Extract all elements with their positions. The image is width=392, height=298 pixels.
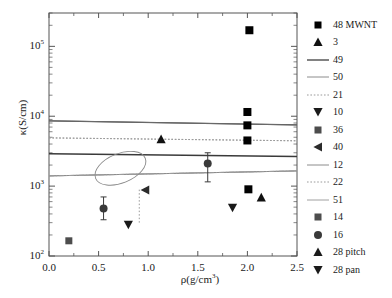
legend-key-line-solid-light-icon: [306, 69, 330, 86]
legend-label: 36: [330, 125, 343, 135]
legend-item[interactable]: 49: [306, 51, 392, 69]
x-tick-label: 0.0: [29, 262, 69, 273]
legend-key-triangle-up-icon: [306, 34, 330, 51]
legend-label: 12: [330, 160, 343, 170]
x-axis-title-tail: ): [215, 273, 219, 285]
y-axis-title: κ(S/cm): [17, 78, 28, 158]
data-point-48-mwnt: [243, 136, 251, 144]
data-points-layer: [65, 26, 266, 244]
legend-item[interactable]: 28 pan: [306, 261, 392, 279]
data-point-16: [204, 160, 212, 168]
y-tick-label: 103: [8, 180, 44, 191]
x-tick-label: 2.0: [227, 262, 267, 273]
legend-key-triangle-up-icon: [306, 244, 330, 261]
legend-item[interactable]: 21: [306, 86, 392, 104]
figure-container: 102103104105 0.00.51.01.52.02.5 κ(S/cm) …: [0, 0, 392, 298]
axes-frame: [49, 13, 297, 256]
legend-label: 48 MWNT: [330, 20, 377, 30]
legend-key-line-solid-icon: [306, 51, 330, 68]
chart-legend: 48 MWNT3495021103640122251141628 pitch28…: [306, 16, 392, 279]
y-tick-label: 105: [8, 40, 44, 51]
legend-item[interactable]: 40: [306, 139, 392, 157]
x-axis-title-main: ρ(g/cm: [181, 273, 212, 285]
legend-label: 40: [330, 142, 343, 152]
x-tick-label: 1.5: [178, 262, 218, 273]
legend-item[interactable]: 51: [306, 191, 392, 209]
data-point-10: [228, 204, 237, 213]
legend-key-square-icon: [306, 16, 330, 33]
legend-key-square-gray-icon: [306, 209, 330, 226]
legend-label: 50: [330, 72, 343, 82]
legend-item[interactable]: 3: [306, 34, 392, 52]
legend-label: 16: [330, 230, 343, 240]
legend-key-circle-icon: [306, 226, 330, 243]
legend-item[interactable]: 14: [306, 209, 392, 227]
data-point-10: [124, 221, 133, 230]
legend-key-triangle-left-icon: [306, 139, 330, 156]
legend-key-line-solid-light-icon: [306, 156, 330, 173]
legend-item[interactable]: 48 MWNT: [306, 16, 392, 34]
legend-item[interactable]: 12: [306, 156, 392, 174]
legend-key-triangle-down-icon: [306, 261, 330, 278]
x-tick-label: 1.0: [128, 262, 168, 273]
x-axis-title: ρ(g/cm3): [140, 274, 260, 285]
data-point-40: [141, 185, 150, 194]
legend-key-line-dotted-icon: [306, 86, 330, 103]
x-tick-label: 0.5: [79, 262, 119, 273]
legend-label: 21: [330, 90, 343, 100]
legend-label: 28 pan: [330, 265, 360, 275]
legend-item[interactable]: 16: [306, 226, 392, 244]
legend-item[interactable]: 10: [306, 104, 392, 122]
data-point-36: [65, 237, 72, 244]
data-point-16: [100, 204, 108, 212]
legend-item[interactable]: 28 pitch: [306, 244, 392, 262]
reference-lines: [49, 121, 297, 176]
data-point-3: [257, 193, 266, 202]
data-point-48-mwnt: [243, 108, 251, 116]
legend-label: 51: [330, 195, 343, 205]
legend-label: 10: [330, 107, 343, 117]
legend-label: 22: [330, 177, 343, 187]
legend-item[interactable]: 50: [306, 69, 392, 87]
axis-ticks: [49, 13, 297, 256]
legend-label: 3: [330, 37, 338, 47]
data-point-48-mwnt: [244, 185, 252, 193]
legend-item[interactable]: 22: [306, 174, 392, 192]
annotations-layer: [90, 145, 151, 223]
legend-key-square-gray-icon: [306, 121, 330, 138]
data-point-48-mwnt: [243, 121, 251, 129]
legend-key-line-dotted-icon: [306, 174, 330, 191]
legend-label: 28 pitch: [330, 247, 366, 257]
legend-key-line-solid-light-icon: [306, 191, 330, 208]
y-tick-label: 102: [8, 250, 44, 261]
legend-label: 14: [330, 212, 343, 222]
legend-item[interactable]: 36: [306, 121, 392, 139]
data-point-48-mwnt: [245, 26, 253, 34]
legend-key-triangle-down-icon: [306, 104, 330, 121]
legend-label: 49: [330, 55, 343, 65]
